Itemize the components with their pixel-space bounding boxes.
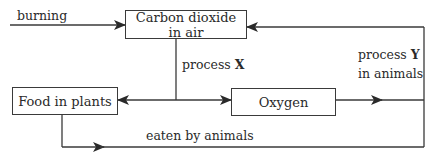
oxygen-node: Oxygen xyxy=(231,88,336,116)
co2-label-line1: Carbon dioxide xyxy=(136,10,236,25)
process-x-prefix: process xyxy=(182,57,235,72)
food-node: Food in plants xyxy=(12,87,118,115)
food-label: Food in plants xyxy=(18,94,112,109)
process-x-label: process X xyxy=(182,57,244,72)
process-y-label: process Y in animals xyxy=(358,45,423,83)
burning-label: burning xyxy=(17,8,67,23)
co2-node: Carbon dioxide in air xyxy=(125,10,247,39)
co2-label-line2: in air xyxy=(169,25,204,40)
process-y-prefix: process xyxy=(358,47,411,62)
eaten-label: eaten by animals xyxy=(146,128,254,143)
process-y-key: Y xyxy=(411,47,420,62)
process-y-line2: in animals xyxy=(358,64,423,83)
oxygen-label: Oxygen xyxy=(259,95,309,110)
process-x-key: X xyxy=(235,57,245,72)
